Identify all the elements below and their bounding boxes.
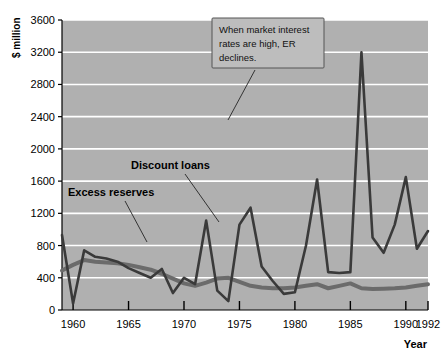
y-tick-label: 1600 bbox=[31, 175, 55, 187]
y-tick-label: 1200 bbox=[31, 207, 55, 219]
series-label-discount-loans: Discount loans bbox=[131, 159, 210, 171]
y-tick-label: 2000 bbox=[31, 143, 55, 155]
y-tick-label: 2400 bbox=[31, 111, 55, 123]
x-axis-title: Year bbox=[404, 338, 428, 350]
y-tick-label: 0 bbox=[49, 304, 55, 316]
x-tick-label: 1992 bbox=[416, 318, 440, 330]
x-tick-label: 1975 bbox=[227, 318, 251, 330]
x-tick-label: 1965 bbox=[116, 318, 140, 330]
x-tick-label: 1985 bbox=[338, 318, 362, 330]
y-tick-label: 3600 bbox=[31, 14, 55, 26]
x-tick-label: 1960 bbox=[61, 318, 85, 330]
series-label-excess-reserves: Excess reserves bbox=[68, 186, 154, 198]
annotation-line-3: declines. bbox=[219, 52, 257, 63]
x-tick-label: 1990 bbox=[394, 318, 418, 330]
x-tick-label: 1970 bbox=[172, 318, 196, 330]
annotation-line-1: When market interest bbox=[219, 24, 310, 35]
y-tick-label: 400 bbox=[37, 272, 55, 284]
annotation-line-2: rates are high, ER bbox=[219, 38, 296, 49]
y-axis-ticks: 04008001200160020002400280032003600 bbox=[31, 14, 62, 316]
y-tick-label: 2800 bbox=[31, 78, 55, 90]
x-tick-label: 1980 bbox=[283, 318, 307, 330]
y-tick-label: 3200 bbox=[31, 46, 55, 58]
discount-loans-excess-reserves-line-chart: 04008001200160020002400280032003600 1960… bbox=[0, 0, 444, 356]
y-axis-title: $ million bbox=[11, 17, 22, 58]
chart-figure: 04008001200160020002400280032003600 1960… bbox=[0, 0, 444, 356]
y-tick-label: 800 bbox=[37, 240, 55, 252]
